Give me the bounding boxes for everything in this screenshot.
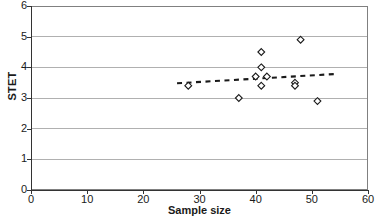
- data-point-marker: [258, 49, 265, 56]
- data-series: [185, 36, 321, 104]
- data-point-marker: [258, 64, 265, 71]
- plot-area: [0, 0, 379, 222]
- data-point-marker: [314, 98, 321, 105]
- data-point-marker: [235, 95, 242, 102]
- scatter-chart: STET 0123456 0102030405060 Sample size: [0, 0, 379, 222]
- data-point-marker: [297, 36, 304, 43]
- data-point-marker: [258, 82, 265, 89]
